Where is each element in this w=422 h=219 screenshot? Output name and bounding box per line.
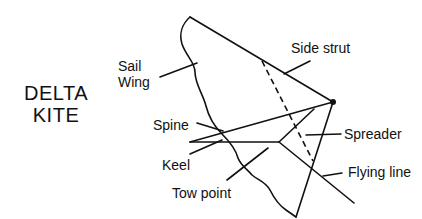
title-line-2: KITE bbox=[20, 104, 92, 126]
delta-kite-diagram: DELTA KITE Sail Wing Side strut Spine Sp… bbox=[0, 0, 422, 219]
spreader-leader bbox=[306, 134, 341, 135]
side-strut-leader bbox=[284, 61, 310, 74]
label-keel: Keel bbox=[162, 157, 190, 173]
sail-top-edge bbox=[190, 17, 333, 102]
label-wing: Wing bbox=[118, 74, 150, 90]
spreader-line bbox=[279, 109, 314, 142]
spine-line bbox=[190, 102, 333, 142]
apex-dot bbox=[330, 99, 336, 105]
label-spine: Spine bbox=[153, 117, 189, 133]
side-strut-dashed bbox=[262, 61, 313, 161]
label-sail: Sail bbox=[118, 58, 141, 74]
flying-line-leader bbox=[323, 173, 342, 176]
label-tow-point: Tow point bbox=[172, 185, 231, 201]
label-flying-line: Flying line bbox=[348, 164, 411, 180]
diagram-title: DELTA KITE bbox=[20, 82, 92, 126]
label-spreader: Spreader bbox=[344, 126, 402, 142]
tow-point-line bbox=[227, 148, 268, 180]
label-side-strut: Side strut bbox=[291, 40, 350, 56]
spine-leader bbox=[197, 123, 223, 131]
title-line-1: DELTA bbox=[20, 82, 92, 104]
sail-wing-leader bbox=[160, 63, 197, 77]
